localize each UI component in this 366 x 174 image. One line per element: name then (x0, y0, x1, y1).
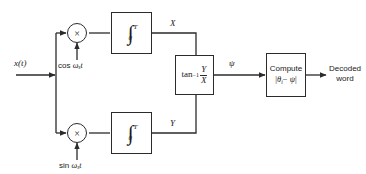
upper-integrator-lower-limit: 0 (128, 35, 132, 42)
compute-label-line2: |θi− ψ| (275, 75, 296, 85)
arctan-denominator: X (200, 76, 208, 85)
multiply-icon: × (74, 128, 80, 139)
output-line1: Decoded (329, 64, 361, 74)
lower-integrator-block: ∫ T 0 (111, 112, 152, 154)
arctan-exponent: −1 (193, 72, 199, 78)
psi-signal-label: ψ (229, 58, 235, 68)
compute-abs-close: | (295, 74, 297, 84)
decoded-word-output-label: Decoded word (329, 64, 361, 83)
block-diagram: x(t) × cos ωst ∫ T 0 X × sin ωst ∫ T 0 Y… (0, 0, 366, 174)
upper-integrator-upper-limit: T (133, 24, 137, 31)
arctan-function-label: tan (182, 70, 193, 79)
upper-carrier-label: cos ωst (58, 61, 83, 70)
lower-carrier-label: sin ωst (59, 161, 82, 170)
upper-carrier-prefix: cos (58, 61, 70, 70)
arctan-fraction: Y X (200, 65, 208, 85)
lower-multiplier: × (67, 123, 87, 143)
lower-integrator-upper-limit: T (133, 124, 137, 131)
upper-output-label-X: X (170, 18, 176, 28)
arctan-numerator: Y (200, 65, 207, 74)
upper-integrator-block: ∫ T 0 (111, 12, 152, 54)
upper-multiplier: × (67, 23, 87, 43)
lower-output-label-Y: Y (170, 118, 175, 128)
multiply-icon: × (74, 28, 80, 39)
lower-integrator-lower-limit: 0 (128, 135, 132, 142)
wire-X-to-arctan (152, 33, 196, 55)
compute-label-line1: Compute (270, 65, 302, 73)
lower-carrier-prefix: sin (59, 161, 69, 170)
compute-block: Compute |θi− ψ| (266, 53, 306, 97)
arctangent-block: tan−1 Y X (175, 55, 214, 95)
upper-carrier-time: t (80, 61, 82, 70)
lower-carrier-time: t (79, 161, 81, 170)
output-line2: word (329, 74, 361, 84)
input-signal-label: x(t) (14, 58, 27, 68)
